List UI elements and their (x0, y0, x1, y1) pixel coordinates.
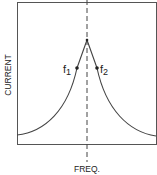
f1-point (75, 66, 79, 70)
resonance-diagram: f1 f2 CURRENT FREQ. (0, 0, 157, 175)
x-axis-label: FREQ. (74, 164, 100, 174)
f2-point (95, 66, 99, 70)
y-axis-label: CURRENT (3, 54, 13, 96)
f2-label: f2 (100, 63, 108, 77)
f1-label: f1 (63, 63, 71, 77)
peak-point (86, 39, 89, 42)
